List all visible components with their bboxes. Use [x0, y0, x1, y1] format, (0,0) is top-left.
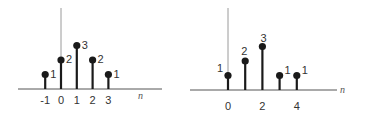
stem: 2 — [57, 53, 72, 89]
tick-label: -1 — [40, 94, 50, 106]
stem: 2 — [89, 53, 104, 89]
left-tick-labels: -10123 — [40, 94, 111, 106]
stem: 1 — [42, 68, 57, 90]
value-label: 2 — [98, 53, 104, 65]
right-stems: 12311 — [217, 32, 308, 91]
stem-marker — [105, 71, 112, 78]
value-label: 3 — [260, 32, 266, 44]
stem-marker — [242, 57, 249, 64]
tick-label: 1 — [74, 94, 80, 106]
stem-marker — [276, 72, 283, 79]
stem: 1 — [293, 64, 308, 91]
stem: 3 — [259, 32, 267, 91]
right-tick-labels: 024 — [225, 100, 300, 112]
stem: 1 — [276, 64, 291, 91]
tick-label: 0 — [58, 94, 64, 106]
tick-label: 2 — [90, 94, 96, 106]
value-label: 1 — [113, 68, 119, 80]
value-label: 3 — [82, 39, 88, 51]
stem-plots: 12321 -10123 n 12311 024 n — [0, 0, 366, 116]
stem-marker — [224, 72, 231, 79]
stem-marker — [73, 42, 80, 49]
left-stems: 12321 — [42, 39, 120, 90]
left-n-label: n — [138, 90, 143, 101]
tick-label: 0 — [225, 100, 231, 112]
tick-label: 3 — [105, 94, 111, 106]
stem-marker — [259, 43, 266, 50]
stem: 1 — [105, 68, 120, 90]
value-label: 1 — [285, 64, 291, 76]
right-n-label: n — [340, 84, 345, 95]
stem-marker — [89, 56, 96, 63]
value-label: 1 — [217, 62, 223, 74]
stem-marker — [57, 56, 64, 63]
stem-marker — [42, 71, 49, 78]
left-stem-plot: 12321 -10123 n — [18, 8, 162, 106]
value-label: 2 — [241, 45, 247, 57]
value-label: 1 — [50, 68, 56, 80]
stem-marker — [293, 72, 300, 79]
tick-label: 4 — [294, 100, 300, 112]
value-label: 2 — [66, 53, 72, 65]
right-stem-plot: 12311 024 n — [190, 8, 345, 112]
value-label: 1 — [302, 64, 308, 76]
stem: 2 — [241, 45, 249, 90]
stem: 3 — [73, 39, 88, 90]
tick-label: 2 — [259, 100, 265, 112]
stem: 1 — [217, 62, 232, 91]
